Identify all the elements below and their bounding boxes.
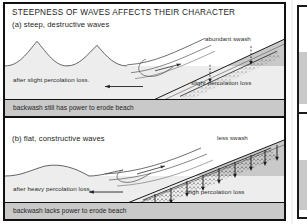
label-slight-percolation-loss: slight percolation loss xyxy=(191,79,251,86)
figure-frame: STEEPNESS OF WAVES AFFECTS THEIR CHARACT… xyxy=(3,2,286,221)
label-after-slight-percolation-loss: after slight percolation loss. xyxy=(13,76,89,83)
sliver-divider xyxy=(297,112,307,114)
panel-b-caption: backwash lacks power to erode beach xyxy=(13,207,127,214)
label-high-percolation-loss: high percolation loss xyxy=(187,188,244,195)
figure-title: STEEPNESS OF WAVES AFFECTS THEIR CHARACT… xyxy=(12,8,235,17)
panel-flat-constructive-waves: (b) flat, constructive waves less swash … xyxy=(5,118,284,219)
label-less-swash: less swash xyxy=(217,134,248,141)
sliver-beach-band-a xyxy=(299,52,307,104)
panel-a-caption-band: backwash still has power to erode beach xyxy=(5,99,284,116)
label-abundant-swash: abundant swash xyxy=(205,35,251,42)
panel-a-subtitle: (a) steep, destructive waves xyxy=(12,20,109,29)
panel-a-caption: backwash still has power to erode beach xyxy=(13,104,134,111)
panel-b-caption-band: backwash lacks power to erode beach xyxy=(5,202,284,219)
label-after-heavy-percolation-loss: after heavy percolation loss. xyxy=(13,185,92,192)
panel-steep-destructive-waves: STEEPNESS OF WAVES AFFECTS THEIR CHARACT… xyxy=(5,4,284,118)
panel-b-subtitle: (b) flat, constructive waves xyxy=(12,134,105,143)
adjacent-page-sliver xyxy=(291,0,307,224)
sliver-beach-band-b xyxy=(299,160,307,210)
